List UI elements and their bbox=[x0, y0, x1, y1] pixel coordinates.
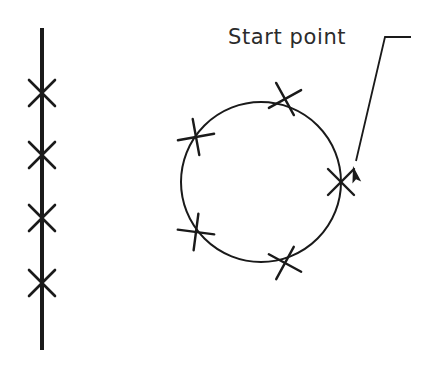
diagram-canvas: Start point bbox=[0, 0, 423, 377]
diagram-svg: Start point bbox=[0, 0, 423, 377]
canvas-background bbox=[0, 0, 423, 377]
start-point-label: Start point bbox=[228, 25, 346, 49]
